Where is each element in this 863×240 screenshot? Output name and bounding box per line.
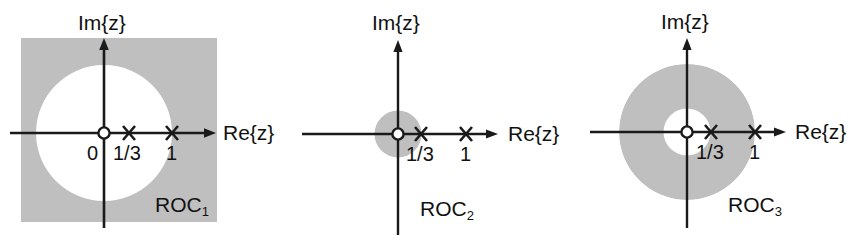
- panel-2-tick-label-one-third: 1/3: [406, 144, 434, 164]
- panel-1-roc-label-text: ROC: [155, 193, 202, 216]
- panel-2-roc-label-text: ROC: [420, 197, 467, 220]
- panel-3-roc-label-text: ROC: [728, 193, 775, 216]
- panel-3-imaginary-axis-label: Im{z}: [661, 11, 709, 32]
- panel-1-roc-label-subscript: 1: [202, 204, 209, 219]
- panel-roc-3: Im{z} Re{z} 1/3 1 ROC3: [580, 0, 863, 240]
- panel-1-tick-label-zero: 0: [87, 143, 98, 163]
- panel-1-canvas: [0, 0, 290, 240]
- panel-3-zero-marker-origin: [681, 126, 692, 137]
- panel-roc-1: Im{z} Re{z} 0 1/3 1 ROC1: [0, 0, 290, 240]
- panel-1-zero-marker-origin: [98, 127, 109, 138]
- panel-roc-2: Im{z} Re{z} 1/3 1 ROC2: [290, 0, 580, 240]
- panel-2-real-axis-label: Re{z}: [508, 123, 559, 144]
- panel-3-roc-label: ROC3: [728, 194, 782, 215]
- panel-2-imaginary-axis-label: Im{z}: [372, 12, 420, 33]
- panel-2-zero-marker-origin: [392, 128, 403, 139]
- panel-1-tick-label-one-third: 1/3: [113, 143, 141, 163]
- panel-3-real-axis-label: Re{z}: [795, 121, 846, 142]
- panel-1-imaginary-axis-label: Im{z}: [78, 12, 126, 33]
- panel-2-roc-label-subscript: 2: [467, 208, 474, 223]
- panel-1-real-axis-label: Re{z}: [223, 122, 274, 143]
- panel-2-roc-label: ROC2: [420, 198, 474, 219]
- panel-1-tick-label-one: 1: [166, 143, 177, 163]
- roc-figure: Im{z} Re{z} 0 1/3 1 ROC1: [0, 0, 863, 240]
- panel-2-tick-label-one: 1: [460, 144, 471, 164]
- panel-3-roc-label-subscript: 3: [775, 204, 782, 219]
- panel-3-tick-label-one: 1: [749, 142, 760, 162]
- panel-1-roc-label: ROC1: [155, 194, 209, 215]
- panel-3-tick-label-one-third: 1/3: [696, 142, 724, 162]
